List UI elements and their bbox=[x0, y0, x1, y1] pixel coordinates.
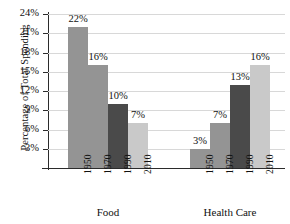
bar bbox=[250, 65, 270, 168]
bar bbox=[68, 27, 88, 168]
y-axis-tick-label: 15% bbox=[0, 65, 39, 76]
y-axis-tick-label: 18% bbox=[0, 46, 39, 57]
y-axis-tick bbox=[43, 130, 48, 131]
y-axis-tick bbox=[43, 72, 48, 73]
x-axis-year-label: 1950 bbox=[83, 154, 93, 174]
y-axis-tick-label: 12% bbox=[0, 84, 39, 95]
bar bbox=[88, 65, 108, 168]
x-axis-year-label: 1990 bbox=[123, 154, 133, 174]
bar-value-label: 22% bbox=[55, 13, 101, 24]
y-axis-tick bbox=[43, 14, 48, 15]
x-axis-group-label: Food bbox=[48, 206, 168, 218]
plot-area: 22%16%10%7%3%7%13%16% bbox=[48, 14, 285, 168]
y-axis-tick-label: 9% bbox=[0, 103, 39, 114]
y-axis-tick bbox=[43, 53, 48, 54]
y-axis-tick-label: 3% bbox=[0, 142, 39, 153]
x-axis-year-label: 1970 bbox=[103, 154, 113, 174]
x-axis-group-label: Health Care bbox=[170, 206, 290, 218]
y-axis-tick-label: 21% bbox=[0, 26, 39, 37]
bar-value-label: 16% bbox=[75, 51, 121, 62]
x-axis-year-label: 2010 bbox=[143, 154, 153, 174]
x-axis-year-label: 1950 bbox=[205, 154, 215, 174]
y-axis-tick-label: 24% bbox=[0, 7, 39, 18]
x-axis-year-label: 1990 bbox=[245, 154, 255, 174]
bar-value-label: 10% bbox=[95, 90, 141, 101]
x-axis-year-label: 1970 bbox=[225, 154, 235, 174]
y-axis-tick bbox=[43, 33, 48, 34]
y-axis-tick bbox=[43, 110, 48, 111]
bar-value-label: 16% bbox=[237, 51, 283, 62]
x-axis-year-label: 2010 bbox=[265, 154, 275, 174]
y-axis-tick bbox=[43, 91, 48, 92]
y-axis-tick-label: 6% bbox=[0, 123, 39, 134]
bar-value-label: 7% bbox=[115, 109, 161, 120]
bar-chart: Percentage of Total Spending 22%16%10%7%… bbox=[0, 0, 290, 224]
y-axis-tick bbox=[43, 149, 48, 150]
